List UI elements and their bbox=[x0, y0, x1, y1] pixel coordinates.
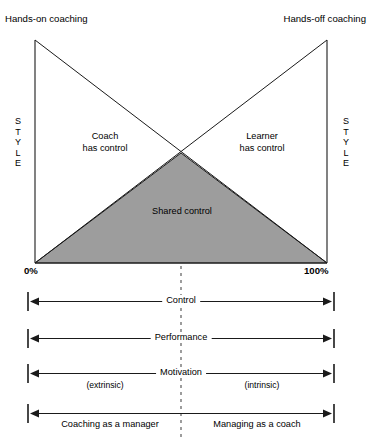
learner-zone-line-2: has control bbox=[240, 143, 285, 155]
band-sublabel-coaching-as-a-manager: Coaching as a manager bbox=[61, 419, 159, 429]
zone-label-shared-control: Shared control bbox=[152, 206, 212, 217]
scale-label-hundred-percent: 100% bbox=[304, 265, 329, 276]
learner-zone-line-1: Learner bbox=[240, 131, 285, 143]
band-label-control: Control bbox=[162, 295, 200, 305]
title-hands-on-coaching: Hands-on coaching bbox=[5, 13, 88, 24]
right-style-letter-e: E bbox=[340, 158, 352, 169]
band-label-performance: Performance bbox=[151, 332, 212, 342]
right-style-axis-label: S T Y L E bbox=[340, 116, 352, 169]
scale-label-zero-percent: 0% bbox=[24, 265, 38, 276]
right-style-letter-l: L bbox=[340, 148, 352, 159]
right-style-letter-s: S bbox=[340, 116, 352, 127]
title-hands-off-coaching: Hands-off coaching bbox=[284, 13, 367, 24]
right-style-letter-t: T bbox=[340, 127, 352, 138]
zone-label-learner-has-control: Learner has control bbox=[240, 131, 285, 154]
band-sublabel-extrinsic: (extrinsic) bbox=[86, 380, 123, 390]
coaching-style-diagram: Hands-on coaching Hands-off coaching S T… bbox=[0, 0, 371, 445]
band-sublabel-managing-as-a-coach: Managing as a coach bbox=[213, 419, 300, 429]
left-style-letter-l: L bbox=[12, 148, 24, 159]
left-style-axis-label: S T Y L E bbox=[12, 116, 24, 169]
right-style-letter-y: Y bbox=[340, 137, 352, 148]
zone-label-coach-has-control: Coach has control bbox=[83, 131, 128, 154]
left-style-letter-t: T bbox=[12, 127, 24, 138]
band-sublabel-intrinsic: (intrinsic) bbox=[245, 380, 280, 390]
band-label-motivation: Motivation bbox=[156, 367, 206, 377]
coach-zone-line-2: has control bbox=[83, 143, 128, 155]
left-style-letter-e: E bbox=[12, 158, 24, 169]
left-style-letter-y: Y bbox=[12, 137, 24, 148]
left-style-letter-s: S bbox=[12, 116, 24, 127]
coach-zone-line-1: Coach bbox=[83, 131, 128, 143]
diagram-graphics bbox=[0, 0, 371, 445]
